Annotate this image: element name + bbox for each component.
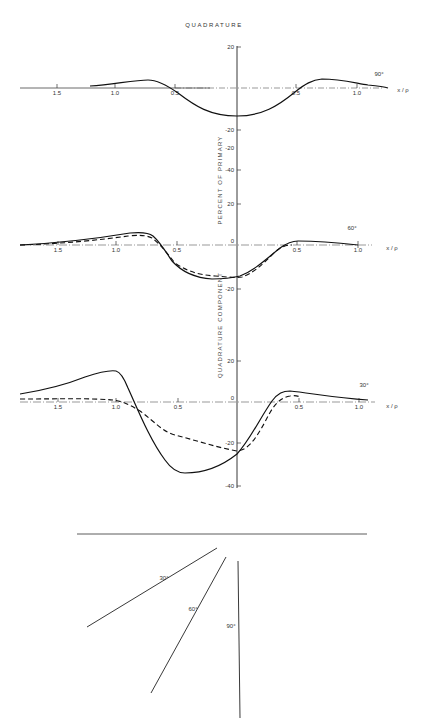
angle-label-30: 30°: [359, 382, 369, 388]
line-30: [87, 548, 217, 627]
angle-diagram: 30° 60° 90°: [77, 534, 367, 718]
y-tick-label: 20: [227, 358, 234, 364]
y-tick-label: 0: [231, 395, 235, 401]
angle-label-60: 60°: [347, 225, 357, 231]
y-tick-label: -20: [225, 286, 234, 292]
diagram-label-90: 90°: [226, 623, 236, 629]
line-90: [238, 561, 240, 718]
y-tick-label: 20: [227, 201, 234, 207]
curve-60-solid: [20, 232, 358, 279]
x-tick-label: 1.0: [111, 90, 120, 96]
x-tick-label: 1.0: [112, 247, 121, 253]
x-tick-label: 1.0: [354, 247, 363, 253]
y-tick-label: -20: [225, 145, 234, 151]
x-axis-label: x / ρ: [397, 87, 409, 93]
y-tick-label: -20: [225, 440, 234, 446]
x-axis-label: x / ρ: [386, 245, 398, 251]
x-tick-label: 1.0: [355, 404, 364, 410]
x-axis-label: x / ρ: [386, 403, 398, 409]
x-tick-label: 1.5: [54, 247, 63, 253]
figure-title: QUADRATURE: [185, 22, 243, 28]
diagram-label-60: 60°: [188, 606, 198, 612]
x-tick-label: 0.5: [293, 247, 302, 253]
chart-30: 1.5 1.0 0.5 0.5 1.0 20 0 -20 -40 30° x /…: [20, 272, 398, 489]
y-axis-label-top: PERCENT OF PRIMARY: [217, 135, 223, 224]
chart-60: 1.5 1.0 0.5 0.5 1.0 -20 -40 20 0 -20 60°…: [20, 135, 398, 292]
y-tick-label: -40: [225, 483, 234, 489]
x-tick-label: 0.5: [295, 404, 304, 410]
y-axis-label-bottom: QUADRATURE COMPONENT: [217, 272, 223, 378]
chart-90: 1.5 1.0 0.5 0.5 1.0 20 -20 90° x / ρ: [20, 44, 409, 133]
y-tick-label: -40: [225, 167, 234, 173]
x-tick-label: 1.5: [53, 90, 62, 96]
curve-30-solid: [20, 371, 368, 473]
angle-label-90: 90°: [374, 71, 384, 77]
figure-canvas: QUADRATURE 1.5 1.0 0.5 0.5 1.0 20 -20 90…: [0, 0, 428, 725]
x-tick-label: 0.5: [173, 247, 182, 253]
diagram-label-30: 30°: [159, 575, 169, 581]
y-tick-label: 20: [227, 44, 234, 50]
x-tick-label: 1.0: [112, 404, 121, 410]
x-tick-label: 1.5: [54, 404, 63, 410]
x-tick-label: 1.0: [353, 90, 362, 96]
y-tick-label: 0: [231, 238, 235, 244]
curve-90-solid: [90, 79, 388, 116]
y-tick-label: -20: [225, 127, 234, 133]
x-tick-label: 0.5: [174, 404, 183, 410]
